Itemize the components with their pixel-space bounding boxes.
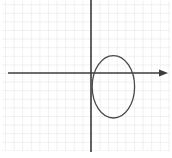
graph-canvas xyxy=(0,0,172,158)
graph-figure: Ellipse plotted on graph paper xyxy=(0,0,172,158)
grid-lines xyxy=(2,1,170,151)
grid-layer xyxy=(2,1,170,151)
